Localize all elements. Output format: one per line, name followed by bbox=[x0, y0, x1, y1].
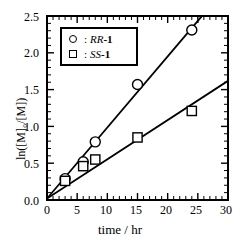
y-tick-label-1.5: 1.5 bbox=[24, 84, 39, 96]
x-tick-label-20: 20 bbox=[160, 204, 172, 216]
data-point-ss-1 bbox=[61, 176, 70, 185]
legend-label-ss1-bold: -1 bbox=[101, 48, 110, 60]
circle-marker-icon bbox=[65, 35, 81, 43]
legend-entry-ss1: : SS-1 bbox=[65, 46, 133, 61]
data-point-rr-1 bbox=[187, 25, 197, 35]
legend-separator: : bbox=[81, 33, 90, 45]
y-tick-label-0.0: 0.0 bbox=[24, 195, 39, 207]
data-point-ss-1 bbox=[133, 133, 142, 142]
y-axis-title: ln([M]₀/[M]) bbox=[14, 98, 29, 160]
legend-label-rr1-italic: RR bbox=[90, 33, 103, 45]
legend-separator: : bbox=[81, 48, 90, 60]
legend: : RR-1 : SS-1 bbox=[60, 27, 138, 66]
legend-label-rr1-bold: -1 bbox=[103, 33, 112, 45]
legend-entry-rr1: : RR-1 bbox=[65, 31, 133, 46]
x-tick-label-25: 25 bbox=[190, 204, 202, 216]
x-tick-label-30: 30 bbox=[220, 204, 232, 216]
y-tick-label-2.0: 2.0 bbox=[24, 47, 39, 59]
x-tick-label-5: 5 bbox=[74, 204, 80, 216]
data-point-rr-1 bbox=[133, 79, 143, 89]
x-tick-label-15: 15 bbox=[130, 204, 142, 216]
y-tick-label-2.5: 2.5 bbox=[24, 11, 39, 23]
x-tick-label-10: 10 bbox=[100, 204, 112, 216]
legend-label-ss1: SS-1 bbox=[90, 48, 110, 60]
kinetics-plot-figure: 2.5 2.0 1.5 1.0 0.5 0.0 0 5 10 15 20 25 … bbox=[0, 0, 240, 242]
x-axis-title: time / hr bbox=[0, 222, 240, 238]
x-tick-label-0: 0 bbox=[44, 204, 50, 216]
data-point-ss-1 bbox=[79, 162, 88, 171]
data-point-ss-1 bbox=[91, 155, 100, 164]
data-point-ss-1 bbox=[187, 106, 196, 115]
legend-label-ss1-italic: SS bbox=[90, 48, 101, 60]
square-marker-icon bbox=[65, 50, 81, 58]
legend-label-rr1: RR-1 bbox=[90, 33, 113, 45]
data-point-rr-1 bbox=[90, 137, 100, 147]
